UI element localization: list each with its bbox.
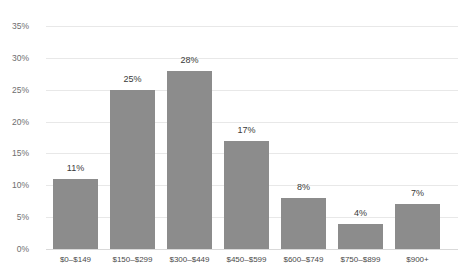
bar-slot-1: 25%	[110, 26, 155, 249]
bar-slot-4: 8%	[281, 26, 326, 249]
bar-slot-6: 7%	[395, 26, 440, 249]
bar-value-1: 25%	[123, 75, 141, 84]
y-axis-tick-30: 30%	[0, 54, 29, 63]
bar-value-5: 4%	[354, 209, 367, 218]
bar-2[interactable]	[167, 71, 212, 249]
y-axis-tick-15: 15%	[0, 149, 29, 158]
bar-6[interactable]	[395, 204, 440, 249]
bar-value-3: 17%	[237, 126, 255, 135]
bar-value-4: 8%	[297, 183, 310, 192]
bar-value-2: 28%	[180, 56, 198, 65]
bar-1[interactable]	[110, 90, 155, 249]
y-axis-tick-0: 0%	[0, 245, 29, 254]
gridline-0	[46, 249, 458, 250]
x-axis-tick-4: $600–$749	[281, 256, 326, 264]
y-axis-tick-25: 25%	[0, 85, 29, 94]
y-axis-tick-10: 10%	[0, 181, 29, 190]
bar-slot-5: 4%	[338, 26, 383, 249]
y-axis-tick-5: 5%	[0, 213, 29, 222]
bar-slot-3: 17%	[224, 26, 269, 249]
bar-4[interactable]	[281, 198, 326, 249]
bar-value-6: 7%	[411, 189, 424, 198]
bar-0[interactable]	[53, 179, 98, 249]
x-axis-tick-5: $750–$899	[338, 256, 383, 264]
x-axis-tick-1: $150–$299	[110, 256, 155, 264]
bar-3[interactable]	[224, 141, 269, 249]
y-axis-tick-35: 35%	[0, 22, 29, 31]
x-axis-tick-2: $300–$449	[167, 256, 212, 264]
bar-value-0: 11%	[67, 164, 84, 173]
bar-chart: 35% 30% 25% 20% 15% 10% 5% 0% 11% 25% 28…	[0, 0, 465, 280]
bars-layer: 11% 25% 28% 17% 8% 4% 7%	[46, 26, 458, 249]
bar-slot-0: 11%	[53, 26, 98, 249]
bar-5[interactable]	[338, 224, 383, 249]
x-axis-tick-3: $450–$599	[224, 256, 269, 264]
y-axis-tick-20: 20%	[0, 117, 29, 126]
x-axis-tick-6: $900+	[395, 256, 440, 264]
x-axis-tick-0: $0–$149	[53, 256, 98, 264]
bar-slot-2: 28%	[167, 26, 212, 249]
